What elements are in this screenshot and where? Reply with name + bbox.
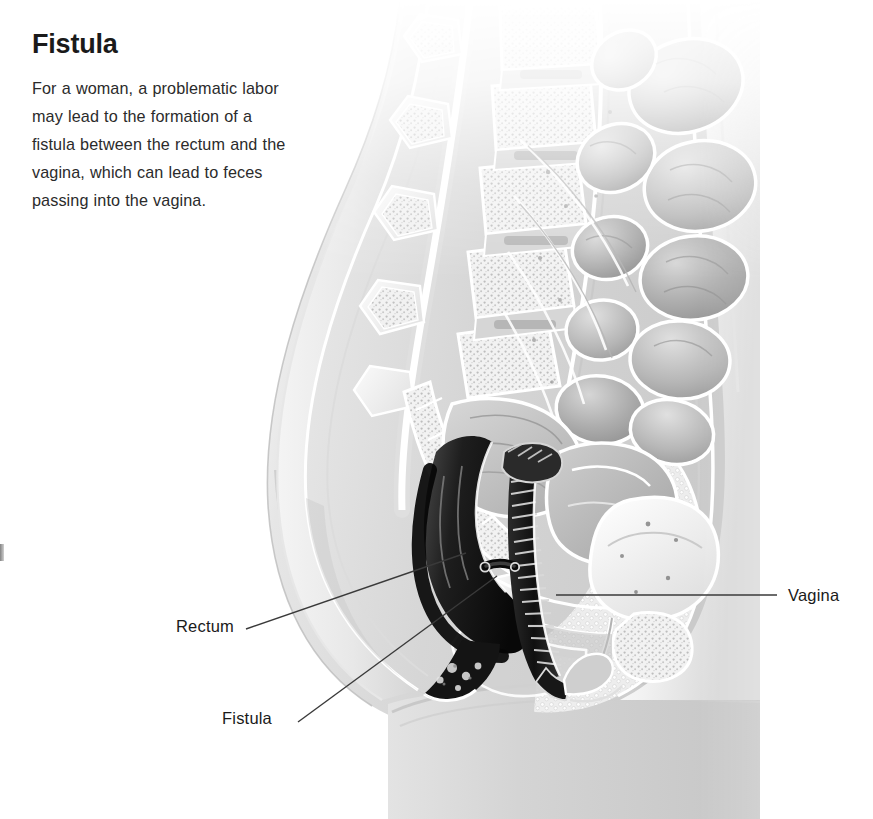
callout-label-rectum: Rectum	[176, 617, 234, 636]
page-title: Fistula	[32, 30, 300, 60]
page-body-text: For a woman, a problematic labor may lea…	[32, 74, 300, 214]
pubic-bone	[613, 613, 692, 682]
callout-label-vagina: Vagina	[788, 586, 839, 605]
page-canvas: Fistula For a woman, a problematic labor…	[0, 0, 873, 819]
callout-label-fistula: Fistula	[222, 709, 272, 728]
text-block: Fistula For a woman, a problematic labor…	[32, 30, 300, 214]
